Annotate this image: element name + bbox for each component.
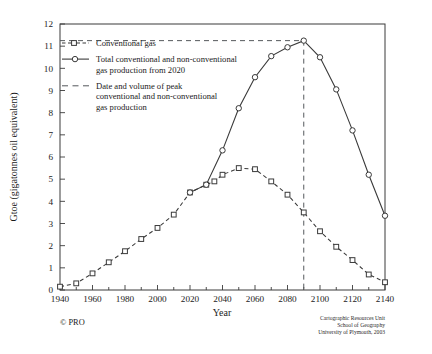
data-point	[171, 212, 176, 217]
data-point	[350, 128, 355, 133]
peak-reference-lines	[60, 41, 304, 290]
y-tick-label-12: 12	[44, 19, 54, 29]
y-axis-tick-labels: 0123456789101112	[44, 19, 54, 295]
data-point	[383, 280, 388, 285]
data-point	[334, 244, 339, 249]
data-point	[220, 172, 225, 177]
y-tick-label-8: 8	[48, 108, 53, 118]
y-tick-label-2: 2	[48, 241, 53, 251]
data-point	[269, 53, 274, 58]
y-tick-label-10: 10	[44, 64, 54, 74]
x-tick-label-1960: 1960	[83, 294, 102, 304]
gas-production-chart-figure: 1940196019802000202020402060208021002120…	[0, 0, 432, 354]
x-tick-label-2100: 2100	[311, 294, 330, 304]
data-point	[187, 190, 192, 195]
data-point	[212, 179, 217, 184]
data-point	[90, 271, 95, 276]
legend-item-peak-date-volume: Date and volume of peakconventional and …	[62, 81, 218, 112]
credit-block: Cartographic Resources UnitSchool of Geo…	[318, 315, 385, 335]
x-tick-label-2140: 2140	[376, 294, 395, 304]
data-point	[74, 281, 79, 286]
x-tick-label-2040: 2040	[213, 294, 232, 304]
data-point	[334, 87, 339, 92]
data-point	[204, 182, 209, 187]
data-point	[285, 45, 290, 50]
data-point	[317, 55, 322, 60]
data-point	[350, 258, 355, 263]
data-point	[301, 210, 306, 215]
legend-item-total-gas: Total conventional and non-conventionalg…	[62, 54, 238, 75]
series-conventional-gas	[58, 166, 388, 289]
data-point	[106, 260, 111, 265]
legend-label: gas production from 2020	[96, 65, 185, 75]
legend-marker-circle	[72, 56, 77, 61]
data-point	[252, 75, 257, 80]
legend-label: gas production	[96, 102, 148, 112]
y-tick-label-9: 9	[48, 86, 53, 96]
legend-marker-square	[72, 41, 77, 46]
y-tick-label-7: 7	[48, 130, 53, 140]
data-point	[58, 284, 63, 289]
credit-line: School of Geography	[337, 322, 385, 328]
y-tick-label-5: 5	[48, 174, 53, 184]
x-tick-label-2000: 2000	[148, 294, 167, 304]
credit-line: University of Plymouth, 2003	[318, 329, 385, 335]
data-point	[236, 106, 241, 111]
legend-label: Total conventional and non-conventional	[96, 54, 238, 64]
data-point	[366, 172, 371, 177]
data-point	[236, 166, 241, 171]
legend-label: Date and volume of peak	[96, 81, 183, 91]
x-tick-label-1940: 1940	[51, 294, 70, 304]
data-point	[301, 38, 306, 43]
data-point	[123, 249, 128, 254]
x-tick-label-2020: 2020	[181, 294, 200, 304]
data-point	[155, 226, 160, 231]
x-axis-title: Year	[213, 307, 232, 318]
x-tick-label-2060: 2060	[246, 294, 265, 304]
data-point	[382, 213, 387, 218]
x-axis-tick-labels: 1940196019802000202020402060208021002120…	[51, 294, 395, 304]
chart-canvas: 1940196019802000202020402060208021002120…	[0, 0, 432, 354]
x-axis-ticks	[60, 285, 385, 290]
x-tick-label-2120: 2120	[343, 294, 362, 304]
chart-legend: Conventional gasTotal conventional and n…	[62, 38, 238, 112]
y-axis-title: Gtoe (gigatonnes oil equivalent)	[8, 92, 20, 221]
series-path	[190, 41, 385, 216]
copyright-label: © PRO	[60, 318, 85, 327]
data-point	[318, 229, 323, 234]
legend-item-conventional-gas: Conventional gas	[62, 38, 157, 48]
y-tick-label-6: 6	[48, 152, 53, 162]
y-axis-ticks	[60, 24, 65, 290]
x-tick-label-1980: 1980	[116, 294, 135, 304]
y-tick-label-1: 1	[48, 263, 53, 273]
credit-line: Cartographic Resources Unit	[320, 315, 385, 321]
series-total-gas	[187, 38, 387, 219]
y-tick-label-4: 4	[48, 197, 53, 207]
legend-label: conventional and non-conventional	[96, 91, 218, 101]
data-point	[220, 148, 225, 153]
x-tick-label-2080: 2080	[278, 294, 297, 304]
y-tick-label-0: 0	[48, 285, 53, 295]
data-point	[139, 237, 144, 242]
data-point	[366, 272, 371, 277]
legend-label: Conventional gas	[96, 38, 157, 48]
data-point	[253, 167, 258, 172]
y-tick-label-11: 11	[44, 41, 53, 51]
data-point	[285, 192, 290, 197]
y-tick-label-3: 3	[48, 219, 53, 229]
data-point	[269, 179, 274, 184]
series-path	[60, 168, 385, 287]
